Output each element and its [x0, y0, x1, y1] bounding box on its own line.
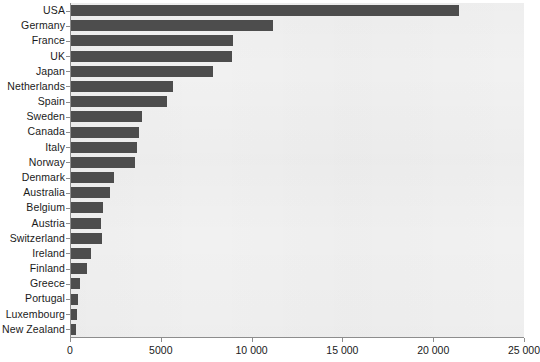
- bar-row: Italy: [0, 140, 540, 155]
- category-label: Austria: [32, 216, 65, 231]
- category-label: Germany: [21, 18, 65, 33]
- bar: [70, 263, 87, 274]
- bar: [70, 20, 273, 31]
- bar: [70, 66, 213, 77]
- bar-row: Switzerland: [0, 231, 540, 246]
- bar-row: Luxembourg: [0, 307, 540, 322]
- bar-row: Denmark: [0, 170, 540, 185]
- bar-row: USA: [0, 3, 540, 18]
- bar: [70, 51, 232, 62]
- bar-row: New Zealand: [0, 322, 540, 337]
- bar: [70, 218, 101, 229]
- bar: [70, 142, 137, 153]
- category-label: France: [32, 33, 65, 48]
- bar: [70, 278, 80, 289]
- bar: [70, 187, 110, 198]
- category-label: Luxembourg: [6, 307, 65, 322]
- bar: [70, 202, 103, 213]
- bar: [70, 294, 78, 305]
- category-label: UK: [50, 49, 65, 64]
- category-label: Finland: [30, 261, 65, 276]
- bar-rows: USAGermanyFranceUKJapanNetherlandsSpainS…: [0, 0, 540, 334]
- category-label: Denmark: [22, 170, 65, 185]
- bar-row: Portugal: [0, 291, 540, 306]
- category-label: Spain: [38, 94, 65, 109]
- bar-row: Japan: [0, 64, 540, 79]
- bar-row: Netherlands: [0, 79, 540, 94]
- category-label: Norway: [29, 155, 65, 170]
- x-axis-tick: [524, 338, 525, 342]
- bar-row: Norway: [0, 155, 540, 170]
- bar-row: France: [0, 33, 540, 48]
- bar: [70, 309, 77, 320]
- x-axis-tick-label: 0: [67, 344, 73, 356]
- bar: [70, 157, 135, 168]
- bar: [70, 111, 142, 122]
- bar: [70, 248, 91, 259]
- bar: [70, 96, 167, 107]
- x-axis-tick: [161, 338, 162, 342]
- bar: [70, 233, 102, 244]
- category-label: Greece: [30, 276, 65, 291]
- bar: [70, 172, 114, 183]
- category-label: Australia: [23, 185, 65, 200]
- bar: [70, 35, 233, 46]
- x-axis-tick: [70, 338, 71, 342]
- category-label: Sweden: [26, 109, 65, 124]
- bar-row: Finland: [0, 261, 540, 276]
- category-label: Switzerland: [10, 231, 65, 246]
- bar-row: Australia: [0, 185, 540, 200]
- y-axis-line: [70, 3, 71, 337]
- category-label: Netherlands: [7, 79, 65, 94]
- x-axis-line: [70, 337, 524, 338]
- category-label: New Zealand: [2, 322, 65, 337]
- x-axis-tick-label: 5000: [149, 344, 172, 356]
- bar-row: UK: [0, 49, 540, 64]
- bar: [70, 127, 139, 138]
- x-axis-tick-label: 15 000: [326, 344, 358, 356]
- category-label: Ireland: [32, 246, 65, 261]
- bar-row: Ireland: [0, 246, 540, 261]
- bar: [70, 5, 459, 16]
- bar-chart: USAGermanyFranceUKJapanNetherlandsSpainS…: [0, 0, 540, 362]
- x-axis-tick: [342, 338, 343, 342]
- category-label: Portugal: [25, 291, 65, 306]
- category-label: Canada: [28, 124, 65, 139]
- x-axis-tick-label: 10 000: [236, 344, 268, 356]
- bar-row: Greece: [0, 276, 540, 291]
- x-axis-tick-label: 25 000: [508, 344, 540, 356]
- bar-row: Canada: [0, 124, 540, 139]
- bar-row: Spain: [0, 94, 540, 109]
- category-label: Japan: [36, 64, 65, 79]
- bar-row: Austria: [0, 216, 540, 231]
- x-axis-tick: [433, 338, 434, 342]
- bar: [70, 81, 173, 92]
- x-axis-tick-label: 20 000: [417, 344, 449, 356]
- bar-row: Belgium: [0, 200, 540, 215]
- category-label: Belgium: [26, 200, 65, 215]
- category-label: Italy: [45, 140, 65, 155]
- bar-row: Sweden: [0, 109, 540, 124]
- bar-row: Germany: [0, 18, 540, 33]
- category-label: USA: [43, 3, 65, 18]
- x-axis-tick: [252, 338, 253, 342]
